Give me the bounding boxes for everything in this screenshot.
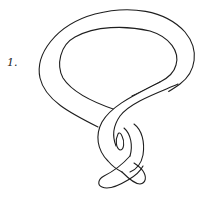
- knot-illustration: [0, 0, 207, 201]
- right-strand-inner: [124, 128, 131, 156]
- inner-twist-contour: [116, 133, 123, 150]
